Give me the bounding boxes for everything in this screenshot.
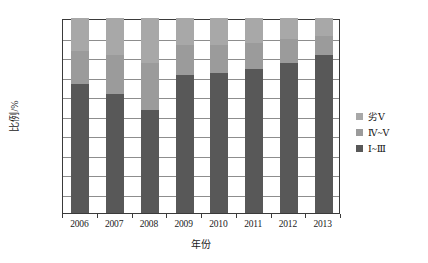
bar-group[interactable] <box>245 18 263 213</box>
x-tick-label: 2009 <box>175 219 193 229</box>
bar-segment <box>210 73 228 213</box>
x-axis-title: 年份 <box>191 236 211 251</box>
bar-segment <box>280 63 298 213</box>
x-tick-mark <box>97 214 98 218</box>
bar-segment <box>71 51 89 84</box>
legend-swatch-icon <box>356 145 363 152</box>
bar-segment <box>176 18 194 45</box>
x-tick-label: 2008 <box>140 219 158 229</box>
x-tick-mark <box>271 214 272 218</box>
bar-segment <box>71 18 89 51</box>
x-tick-mark <box>166 214 167 218</box>
bar-segment <box>71 84 89 213</box>
bar-segment <box>106 94 124 213</box>
legend-label: Ⅳ~Ⅴ <box>368 127 389 138</box>
bar-group[interactable] <box>141 18 159 213</box>
bar-segment <box>210 45 228 72</box>
x-tick-mark <box>62 214 63 218</box>
bar-segment <box>176 45 194 74</box>
x-tick-label: 2010 <box>209 219 227 229</box>
bar-group[interactable] <box>315 18 333 213</box>
x-tick-mark <box>305 214 306 218</box>
bar-segment <box>245 18 263 43</box>
chart-legend: 劣ⅤⅣ~ⅤⅠ~Ⅲ <box>356 108 426 156</box>
x-tick-label: 2007 <box>105 219 123 229</box>
bar-segment <box>280 39 298 62</box>
bar-segment <box>245 69 263 213</box>
bar-segment <box>315 55 333 213</box>
x-tick-mark <box>201 214 202 218</box>
bar-segment <box>315 18 333 36</box>
legend-label: 劣Ⅴ <box>368 109 385 123</box>
legend-swatch-icon <box>356 129 363 136</box>
legend-item[interactable]: Ⅳ~Ⅴ <box>356 124 426 140</box>
bar-segment <box>141 63 159 110</box>
bar-group[interactable] <box>71 18 89 213</box>
x-tick-label: 2013 <box>314 219 332 229</box>
bar-group[interactable] <box>176 18 194 213</box>
x-tick-label: 2011 <box>244 219 262 229</box>
bar-segment <box>141 18 159 63</box>
bar-segment <box>280 18 298 39</box>
bar-group[interactable] <box>280 18 298 213</box>
bar-segment <box>315 36 333 56</box>
x-tick-mark <box>236 214 237 218</box>
x-tick-label: 2006 <box>70 219 88 229</box>
y-axis: 0102030405060708090100 <box>0 0 62 263</box>
bar-segment <box>106 18 124 55</box>
legend-label: Ⅰ~Ⅲ <box>368 143 386 154</box>
bar-segment <box>210 18 228 45</box>
bar-segment <box>106 55 124 94</box>
legend-item[interactable]: 劣Ⅴ <box>356 108 426 124</box>
x-tick-mark <box>132 214 133 218</box>
plot-area <box>62 19 340 214</box>
bar-segment <box>141 110 159 213</box>
legend-swatch-icon <box>356 113 363 120</box>
legend-item[interactable]: Ⅰ~Ⅲ <box>356 140 426 156</box>
bar-segment <box>176 75 194 213</box>
bar-group[interactable] <box>106 18 124 213</box>
bar-group[interactable] <box>210 18 228 213</box>
stacked-bar-chart: 比例/% 0102030405060708090100 200620072008… <box>0 0 428 263</box>
x-tick-label: 2012 <box>279 219 297 229</box>
x-tick-mark <box>340 214 341 218</box>
bar-segment <box>245 43 263 68</box>
